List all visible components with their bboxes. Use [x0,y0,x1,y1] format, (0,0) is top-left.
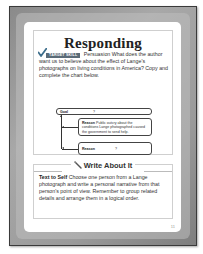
pencil-icon [74,161,82,169]
reason-box: Reason Public outcry about the condition… [78,118,152,136]
reason-label: Reason [82,147,95,151]
page-number: 11 [171,224,175,229]
arrow-left-icon [62,126,64,128]
prompt-lead: Text to Self [39,174,67,180]
write-about-it-header: Write About It [34,159,172,171]
reason-value: ? [115,147,117,152]
goal-box: Goal ? [56,108,152,115]
responding-panel: Responding TARGET SKILL Persuasion What … [33,30,173,155]
reason-label: Reason [82,121,95,125]
write-about-it-title: Write About It [71,161,136,170]
connector-line [62,127,78,128]
reason-box: Reason ? [78,142,152,155]
checkmark-icon [39,50,46,57]
arrow-left-icon [62,147,64,149]
section-heading: Write About It [84,161,133,170]
persuasion-chart: Goal ? Reason Public outcry about the co… [54,107,174,157]
divider [34,171,62,172]
connector-line [61,115,62,149]
goal-value: ? [93,110,95,115]
connector-line [62,149,78,150]
divider [144,171,172,172]
write-about-it-panel: Write About It Text to Self Choose one p… [33,164,173,219]
write-about-it-prompt: Text to Self Choose one person from a La… [39,174,171,202]
persuasion-prompt: TARGET SKILL Persuasion What does the au… [39,50,171,79]
goal-label: Goal [60,110,68,114]
target-skill-badge: TARGET SKILL [46,53,80,58]
skill-name: Persuasion [84,51,111,57]
